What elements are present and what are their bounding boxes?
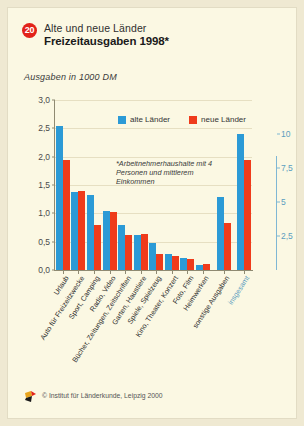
y-axis-tick-label: 0,5 [38, 237, 50, 247]
bar-group [236, 100, 252, 270]
bar [224, 223, 231, 270]
chart-supertitle: Alte und neue Länder [44, 22, 286, 34]
y-axis-right-tick-label: 2,5 [281, 231, 293, 241]
bar [203, 264, 210, 270]
bar [87, 195, 94, 270]
chart-axis-unit-label: Ausgaben in 1000 DM [24, 72, 117, 82]
y-axis-tick-label: 2,5 [38, 123, 50, 133]
institute-logo-icon [24, 389, 37, 402]
y-axis-right-tick-label: 10 [281, 129, 290, 139]
y-axis-right-tick-mark [277, 236, 280, 237]
y-axis-tick-label: 0,0 [38, 265, 50, 275]
x-axis-labels: UrlaubAuto für FreizeitzweckeSport, Camp… [55, 272, 252, 367]
bar [63, 160, 70, 271]
bar [172, 256, 179, 270]
y-axis-right-tick-mark [277, 134, 280, 135]
figure-number-badge: 20 [22, 23, 37, 38]
bar [141, 234, 148, 270]
bar-group [86, 100, 102, 270]
bar [196, 265, 203, 270]
chart-card: 20 Alte und neue Länder Freizeitausgaben… [8, 8, 296, 418]
bar [187, 259, 194, 270]
bar [118, 225, 125, 270]
y-axis-right-tick-mark [277, 168, 280, 169]
bar [56, 126, 63, 271]
bar [78, 191, 85, 270]
y-axis-tick-label: 2,0 [38, 152, 50, 162]
y-axis-tick-label: 1,0 [38, 208, 50, 218]
chart-title: Freizeitausgaben 1998* [44, 34, 286, 48]
bar [94, 225, 101, 270]
bar-group [71, 100, 87, 270]
bar [103, 211, 110, 271]
copyright-text: © Institut für Länderkunde, Leipzig 2000 [42, 392, 163, 399]
bar [156, 254, 163, 270]
bar-group [55, 100, 71, 270]
y-axis-right-tick-label: 5 [281, 197, 286, 207]
bar [110, 212, 117, 270]
y-axis-right-tick-label: 7,5 [281, 163, 293, 173]
bar [125, 235, 132, 270]
bar [237, 134, 244, 270]
bar [165, 254, 172, 270]
bar [244, 160, 251, 270]
bar [149, 243, 156, 270]
chart-footer: © Institut für Länderkunde, Leipzig 2000 [24, 389, 163, 402]
y-axis-right [276, 156, 277, 270]
bar [180, 258, 187, 270]
bar-group [102, 100, 118, 270]
bar [134, 235, 141, 270]
y-axis-right-tick-mark [277, 202, 280, 203]
y-axis-tick-label: 1,5 [38, 180, 50, 190]
chart-header: 20 Alte und neue Länder Freizeitausgaben… [22, 22, 286, 48]
bar [71, 192, 78, 270]
bar [217, 197, 224, 270]
y-axis-tick-label: 3,0 [38, 95, 50, 105]
chart-annotation: *Arbeitnehmerhaushalte mit 4 Personen un… [116, 159, 226, 186]
